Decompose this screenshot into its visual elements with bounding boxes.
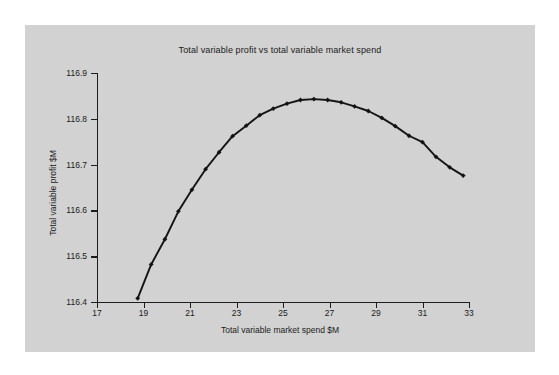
y-tick-label: 116.5 (47, 251, 87, 261)
x-tick-label: 29 (361, 308, 391, 318)
x-tick-label: 23 (222, 308, 252, 318)
y-tick-mark (91, 119, 97, 120)
y-tick-mark (91, 256, 97, 257)
x-tick-label: 31 (408, 308, 438, 318)
data-series-line (25, 25, 535, 352)
series-path (138, 99, 464, 298)
y-tick-mark (91, 73, 97, 74)
plot-area: Total variable market spend $M Total var… (25, 25, 535, 352)
x-tick-label: 21 (175, 308, 205, 318)
data-point-marker (285, 101, 290, 106)
x-axis-title: Total variable market spend $M (25, 325, 535, 335)
y-tick-label: 116.8 (47, 114, 87, 124)
y-tick-mark (91, 210, 97, 211)
y-tick-label: 116.9 (47, 68, 87, 78)
x-tick-label: 33 (454, 308, 484, 318)
x-tick-label: 17 (82, 308, 112, 318)
data-point-marker (352, 104, 357, 109)
chart-panel: Total variable profit vs total variable … (25, 25, 535, 352)
y-tick-label: 116.7 (47, 160, 87, 170)
data-point-marker (312, 97, 317, 102)
x-tick-label: 27 (315, 308, 345, 318)
data-point-marker (325, 98, 330, 103)
data-point-marker (298, 98, 303, 103)
x-tick-label: 25 (268, 308, 298, 318)
x-tick-label: 19 (129, 308, 159, 318)
chart-figure: Total variable profit vs total variable … (0, 0, 559, 375)
y-tick-label: 116.4 (47, 297, 87, 307)
y-tick-label: 116.6 (47, 205, 87, 215)
y-tick-mark (91, 165, 97, 166)
data-point-marker (339, 100, 344, 105)
